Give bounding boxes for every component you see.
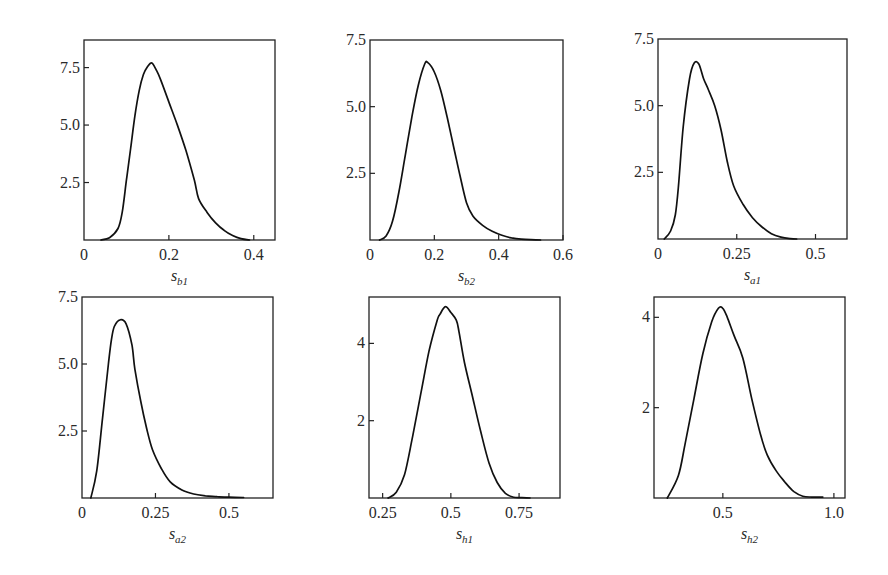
- x-tick-label: 0.25: [369, 504, 397, 521]
- x-axis-label: sa2: [169, 525, 187, 545]
- y-tick-label: 2.5: [60, 174, 80, 191]
- density-curve: [388, 307, 530, 498]
- y-tick-label: 7.5: [346, 31, 366, 48]
- y-tick-label: 4: [357, 334, 365, 351]
- y-tick-label: 7.5: [634, 30, 654, 47]
- panel-s-a2: 00.250.52.55.07.5sa2: [58, 288, 273, 545]
- x-tick-label: 0.6: [553, 246, 573, 263]
- plot-frame: [370, 40, 563, 240]
- x-tick-label: 0.5: [219, 504, 239, 521]
- plot-frame: [82, 297, 273, 498]
- x-tick-label: 0: [654, 245, 662, 262]
- x-tick-label: 0.75: [505, 504, 533, 521]
- x-tick-label: 0: [78, 504, 86, 521]
- y-tick-label: 5.0: [346, 98, 366, 115]
- x-tick-label: 0.2: [424, 246, 444, 263]
- x-tick-label: 0.4: [489, 246, 509, 263]
- density-curve: [101, 63, 250, 240]
- x-tick-label: 0: [80, 246, 88, 263]
- x-tick-label: 0.5: [806, 245, 826, 262]
- panel-s-b1: 00.20.42.55.07.5sb1: [60, 40, 275, 287]
- y-tick-label: 2.5: [346, 164, 366, 181]
- density-curve: [380, 61, 541, 240]
- x-tick-label: 0.2: [159, 246, 179, 263]
- x-tick-label: 1.0: [824, 504, 844, 521]
- figure: 00.20.42.55.07.5sb100.20.40.62.55.07.5sb…: [0, 0, 888, 575]
- x-axis-label: sh2: [741, 525, 759, 545]
- panel-s-h1: 0.250.50.7524sh1: [357, 297, 560, 545]
- x-tick-label: 0: [366, 246, 374, 263]
- x-axis-label: sb2: [458, 267, 476, 287]
- x-tick-label: 0.25: [723, 245, 751, 262]
- y-tick-label: 5.0: [58, 355, 78, 372]
- x-tick-label: 0.5: [441, 504, 461, 521]
- plot-frame: [654, 297, 845, 498]
- plot-frame: [84, 40, 275, 240]
- y-tick-label: 2: [357, 412, 365, 429]
- panel-s-h2: 0.51.024sh2: [642, 297, 845, 545]
- plot-frame: [369, 297, 560, 498]
- x-axis-label: sa1: [744, 266, 761, 286]
- x-tick-label: 0.25: [141, 504, 169, 521]
- y-tick-label: 2.5: [58, 422, 78, 439]
- y-tick-label: 7.5: [58, 288, 78, 305]
- x-axis-label: sb1: [171, 267, 188, 287]
- y-tick-label: 5.0: [634, 97, 654, 114]
- density-curve: [91, 320, 244, 498]
- y-tick-label: 2: [642, 399, 650, 416]
- y-tick-label: 5.0: [60, 116, 80, 133]
- density-curve: [664, 62, 796, 239]
- y-tick-label: 4: [642, 308, 650, 325]
- density-curve: [667, 307, 823, 498]
- plot-frame: [658, 39, 847, 239]
- x-axis-label: sh1: [456, 525, 473, 545]
- y-tick-label: 7.5: [60, 59, 80, 76]
- y-tick-label: 2.5: [634, 163, 654, 180]
- x-tick-label: 0.5: [713, 504, 733, 521]
- panel-s-b2: 00.20.40.62.55.07.5sb2: [346, 31, 573, 287]
- x-tick-label: 0.4: [244, 246, 264, 263]
- panel-s-a1: 00.250.52.55.07.5sa1: [634, 30, 847, 286]
- density-plot-grid: 00.20.42.55.07.5sb100.20.40.62.55.07.5sb…: [0, 0, 888, 575]
